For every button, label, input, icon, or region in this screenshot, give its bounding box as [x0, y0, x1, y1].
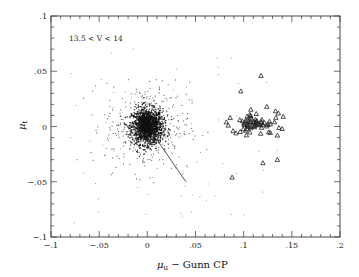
- axis-ticks: [51, 16, 340, 237]
- x-tick-label: .05: [189, 241, 202, 250]
- cluster-member-points: [224, 73, 285, 179]
- x-tick-label: .15: [285, 241, 298, 250]
- y-tick-label: .05: [34, 67, 47, 76]
- x-tick-label: 0: [145, 241, 150, 250]
- x-axis-label: μu − Gunn CP: [157, 259, 228, 272]
- x-tick-label: −.1: [44, 241, 58, 250]
- scatter-chart: −.1−.050.05.1.15.2 .1.050−.05−.1 13.5 < …: [0, 0, 359, 277]
- y-axis-label-sub: t: [21, 121, 29, 124]
- x-axis-label-rest: − Gunn CP: [168, 259, 228, 270]
- y-tick-label: −.05: [28, 178, 47, 187]
- magnitude-range-annotation: 13.5 < V < 14: [69, 34, 123, 43]
- y-axis-label: μt: [16, 121, 29, 131]
- x-tick-labels: −.1−.050.05.1.15.2: [44, 241, 344, 250]
- x-tick-label: .1: [240, 241, 248, 250]
- y-tick-label: 0: [42, 123, 47, 132]
- x-tick-label: .2: [336, 241, 344, 250]
- plot-frame: [51, 16, 340, 237]
- trail-line: [157, 140, 186, 182]
- y-tick-label: .1: [39, 12, 47, 21]
- y-tick-labels: .1.050−.05−.1: [28, 12, 47, 242]
- y-tick-label: −.1: [33, 233, 47, 242]
- x-tick-label: −.05: [89, 241, 108, 250]
- field-star-points: [71, 49, 281, 224]
